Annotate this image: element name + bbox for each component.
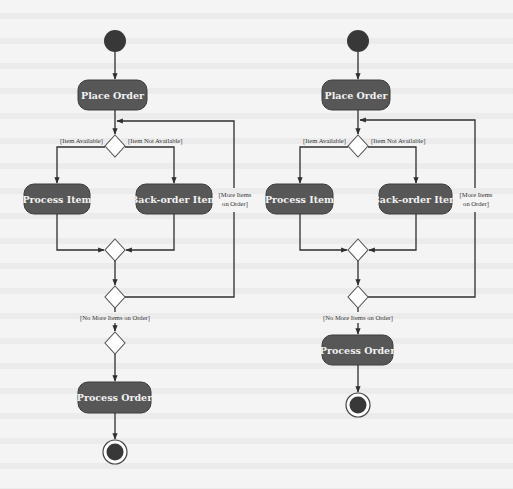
guard-item-available: [Item Available] xyxy=(60,137,103,145)
guard-no-more-items: [No More Items on Order] xyxy=(323,314,393,322)
guard-item-not-available: [Item Not Available] xyxy=(128,137,182,145)
guard-item-not-available: [Item Not Available] xyxy=(371,137,425,145)
edge-to-backorder-item xyxy=(368,147,416,183)
decision-more-items xyxy=(348,286,368,308)
edge-process-item-to-merge xyxy=(300,214,347,250)
guard-more-items-line1: [More Items xyxy=(219,191,252,199)
edge-to-process-item xyxy=(300,147,348,183)
edge-to-process-item xyxy=(57,147,105,183)
guard-more-items-line2: on Order] xyxy=(222,200,248,208)
action-label: Process Order xyxy=(77,392,153,403)
merge-node-2 xyxy=(105,332,125,354)
edge-process-item-to-merge xyxy=(57,214,104,250)
activity-diagram-left: Place Order [More Items on Order] [Item … xyxy=(22,30,251,464)
edge-loop-upper xyxy=(117,121,234,188)
final-node xyxy=(346,393,370,417)
action-label: Process Order xyxy=(320,345,396,356)
action-process-item: Process Item xyxy=(265,184,334,214)
action-backorder-item: Back-order Item xyxy=(130,184,217,214)
action-label: Place Order xyxy=(81,90,145,101)
action-label: Back-order Item xyxy=(372,194,459,205)
guard-more-items-line1: [More Items xyxy=(460,191,493,199)
guard-item-available: [Item Available] xyxy=(303,137,346,145)
decision-item-availability xyxy=(348,135,368,157)
action-backorder-item: Back-order Item xyxy=(372,184,459,214)
action-label: Back-order Item xyxy=(130,194,217,205)
action-place-order: Place Order xyxy=(78,80,147,110)
edge-backorder-to-merge xyxy=(369,214,416,250)
action-process-item: Process Item xyxy=(22,184,91,214)
activity-diagrams-canvas: Place Order [More Items on Order] [Item … xyxy=(0,0,513,489)
initial-node xyxy=(104,30,126,52)
action-process-order: Process Order xyxy=(320,335,396,365)
final-node xyxy=(103,440,127,464)
decision-item-availability xyxy=(105,135,125,157)
guard-more-items-line2: on Order] xyxy=(463,200,489,208)
edge-backorder-to-merge xyxy=(126,214,174,250)
action-label: Process Item xyxy=(265,194,334,205)
action-process-order: Process Order xyxy=(77,382,153,413)
initial-node xyxy=(347,30,369,52)
decision-more-items xyxy=(105,286,125,308)
action-place-order: Place Order xyxy=(322,80,390,110)
edge-loop-lower xyxy=(368,212,475,297)
guard-no-more-items: [No More Items on Order] xyxy=(80,314,150,322)
edge-loop-upper xyxy=(360,120,475,188)
edge-to-backorder-item xyxy=(125,147,174,183)
activity-diagram-right: Place Order [More Items on Order] [Item … xyxy=(265,30,493,417)
action-label: Process Item xyxy=(22,194,91,205)
merge-node xyxy=(348,239,368,261)
merge-node xyxy=(105,239,125,261)
edge-loop-lower xyxy=(125,212,234,297)
action-label: Place Order xyxy=(324,90,388,101)
